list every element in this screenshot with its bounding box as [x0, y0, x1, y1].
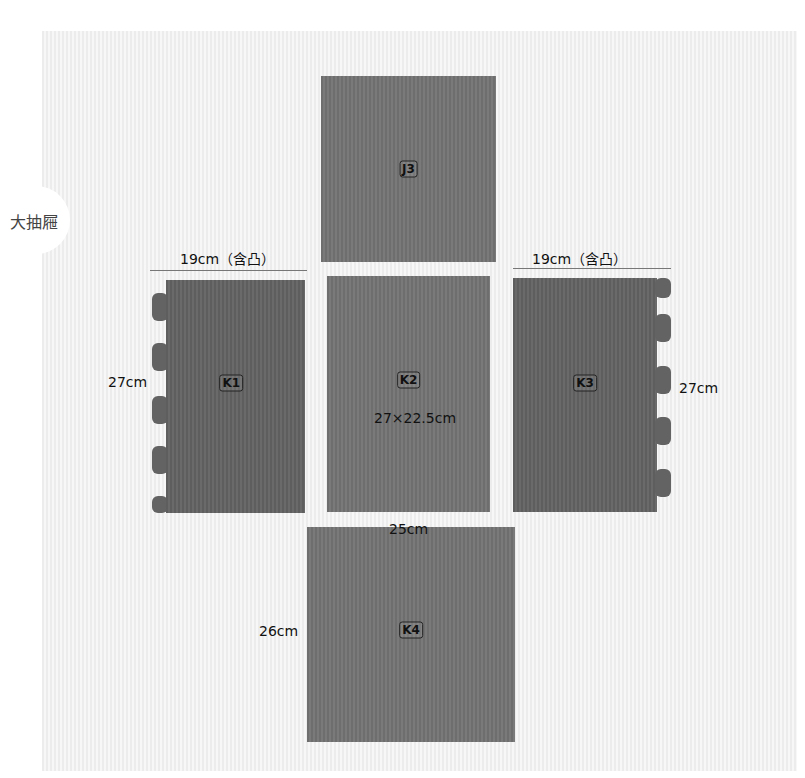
piece-k1: K1 [166, 280, 305, 513]
piece-label-j3: J3 [399, 161, 418, 178]
piece-label-k2: K2 [397, 371, 421, 388]
piece-label-k4: K4 [399, 622, 423, 639]
piece-k4: K4 [307, 527, 515, 742]
k4-height-label: 26cm [259, 623, 298, 639]
interlock-tab [655, 417, 671, 445]
k1-width-rule [150, 270, 307, 271]
section-label: 大抽屜 [10, 209, 58, 233]
interlock-tab [655, 314, 671, 342]
piece-k2: K2 [327, 276, 490, 512]
piece-label-k1: K1 [220, 374, 244, 391]
k3-width-rule [513, 268, 671, 269]
k4-width-label: 25cm [389, 521, 428, 537]
piece-k3: K3 [513, 278, 657, 512]
k3-width-label: 19cm（含凸） [532, 248, 627, 268]
section-badge: 大抽屜 [0, 186, 70, 254]
interlock-tab [655, 278, 671, 298]
k3-height-label: 27cm [679, 380, 718, 396]
piece-j3: J3 [321, 76, 496, 262]
k1-height-label: 27cm [108, 374, 147, 390]
k2-size-label: 27×22.5cm [374, 410, 456, 426]
k1-width-label: 19cm（含凸） [180, 248, 275, 268]
interlock-tab [655, 366, 671, 394]
interlock-tab [655, 469, 671, 497]
piece-label-k3: K3 [573, 375, 597, 392]
